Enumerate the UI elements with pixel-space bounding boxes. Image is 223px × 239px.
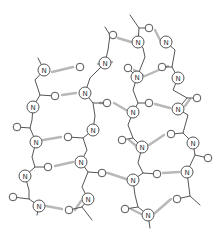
nitrogen-atom: N [172, 72, 184, 84]
nitrogen-label: N [22, 173, 27, 181]
nitrogen-label: N [139, 144, 144, 152]
nitrogen-atom: N [136, 141, 148, 153]
oxygen-atom [13, 123, 21, 131]
nitrogen-label: N [102, 60, 107, 68]
oxygen-atom [204, 154, 212, 162]
hydrogen-bond [131, 209, 141, 214]
oxygen-atom [121, 205, 129, 213]
oxygen-atom [124, 64, 132, 72]
nitrogen-atom: N [127, 174, 139, 186]
oxygen-atom [44, 163, 52, 171]
hydrogen-bond [52, 67, 73, 72]
nitrogen-label: N [130, 177, 135, 185]
hydrogen-bond [155, 199, 171, 213]
backbone-bond [82, 207, 92, 220]
hydrogen-bond [149, 135, 164, 145]
nitrogen-atom: N [181, 166, 193, 178]
hydrogen-bond [114, 103, 126, 110]
nitrogen-label: N [134, 74, 139, 82]
nitrogen-label: N [33, 139, 38, 147]
oxygen-atoms [9, 24, 212, 214]
nitrogen-label: N [163, 39, 168, 47]
nitrogen-atom: N [30, 136, 42, 148]
oxygen-atom [51, 92, 59, 100]
oxygen-atom [145, 99, 153, 107]
nitrogen-label: N [90, 127, 95, 135]
hydrogen-bonds [43, 30, 190, 214]
nitrogen-label: N [78, 159, 83, 167]
nitrogen-label: N [175, 75, 180, 83]
oxygen-atom [118, 136, 126, 144]
oxygen-atom [145, 24, 153, 32]
nitrogen-atom: N [127, 106, 139, 118]
nitrogen-atoms: NNNNNNNNNNNNNNNNNNNNN [19, 36, 199, 221]
nitrogen-label: N [175, 106, 180, 114]
oxygen-atom [9, 193, 17, 201]
nitrogen-atom: N [27, 101, 39, 113]
nitrogen-atom: N [132, 36, 144, 48]
oxygen-atom [65, 206, 73, 214]
nitrogen-label: N [190, 140, 195, 148]
oxygen-atom [153, 170, 161, 178]
oxygen-atom [103, 99, 111, 107]
nitrogen-atom: N [19, 170, 31, 182]
backbone-bond [190, 196, 200, 205]
hydrogen-bond [118, 38, 131, 42]
beta-sheet-diagram: NNNNNNNNNNNNNNNNNNNNN [0, 0, 223, 239]
oxygen-atom [193, 94, 201, 102]
nitrogen-atom: N [172, 103, 184, 115]
nitrogen-atom: N [99, 57, 111, 69]
hydrogen-bond [155, 30, 160, 40]
nitrogen-label: N [30, 104, 35, 112]
hydrogen-bond [43, 137, 61, 140]
nitrogen-label: N [36, 203, 41, 211]
nitrogen-atom: N [131, 71, 143, 83]
hydrogen-bond [46, 206, 62, 209]
oxygen-atom [98, 169, 106, 177]
nitrogen-atom: N [142, 209, 154, 221]
nitrogen-atom: N [38, 64, 50, 76]
hydrogen-bond [129, 140, 135, 145]
hydrogen-bond [55, 162, 73, 166]
nitrogen-atom: N [187, 137, 199, 149]
nitrogen-label: N [41, 67, 46, 75]
nitrogen-label: N [135, 39, 140, 47]
oxygen-atom [109, 31, 117, 39]
nitrogen-label: N [145, 212, 150, 220]
oxygen-atom [64, 133, 72, 141]
nitrogen-atom: N [75, 156, 87, 168]
hydrogen-bond [62, 93, 76, 95]
oxygen-atom [158, 63, 166, 71]
oxygen-atom [173, 195, 181, 203]
oxygen-atom [167, 130, 175, 138]
nitrogen-atom: N [87, 124, 99, 136]
hydrogen-bond [163, 172, 179, 173]
hydrogen-bond [155, 104, 170, 108]
nitrogen-label: N [82, 90, 87, 98]
nitrogen-atom: N [82, 193, 94, 205]
oxygen-atom [76, 63, 84, 71]
nitrogen-atom: N [33, 200, 45, 212]
nitrogen-atom: N [160, 36, 172, 48]
nitrogen-label: N [184, 169, 189, 177]
nitrogen-atom: N [79, 87, 91, 99]
nitrogen-label: N [130, 109, 135, 117]
hydrogen-bond [108, 173, 126, 179]
nitrogen-label: N [85, 196, 90, 204]
